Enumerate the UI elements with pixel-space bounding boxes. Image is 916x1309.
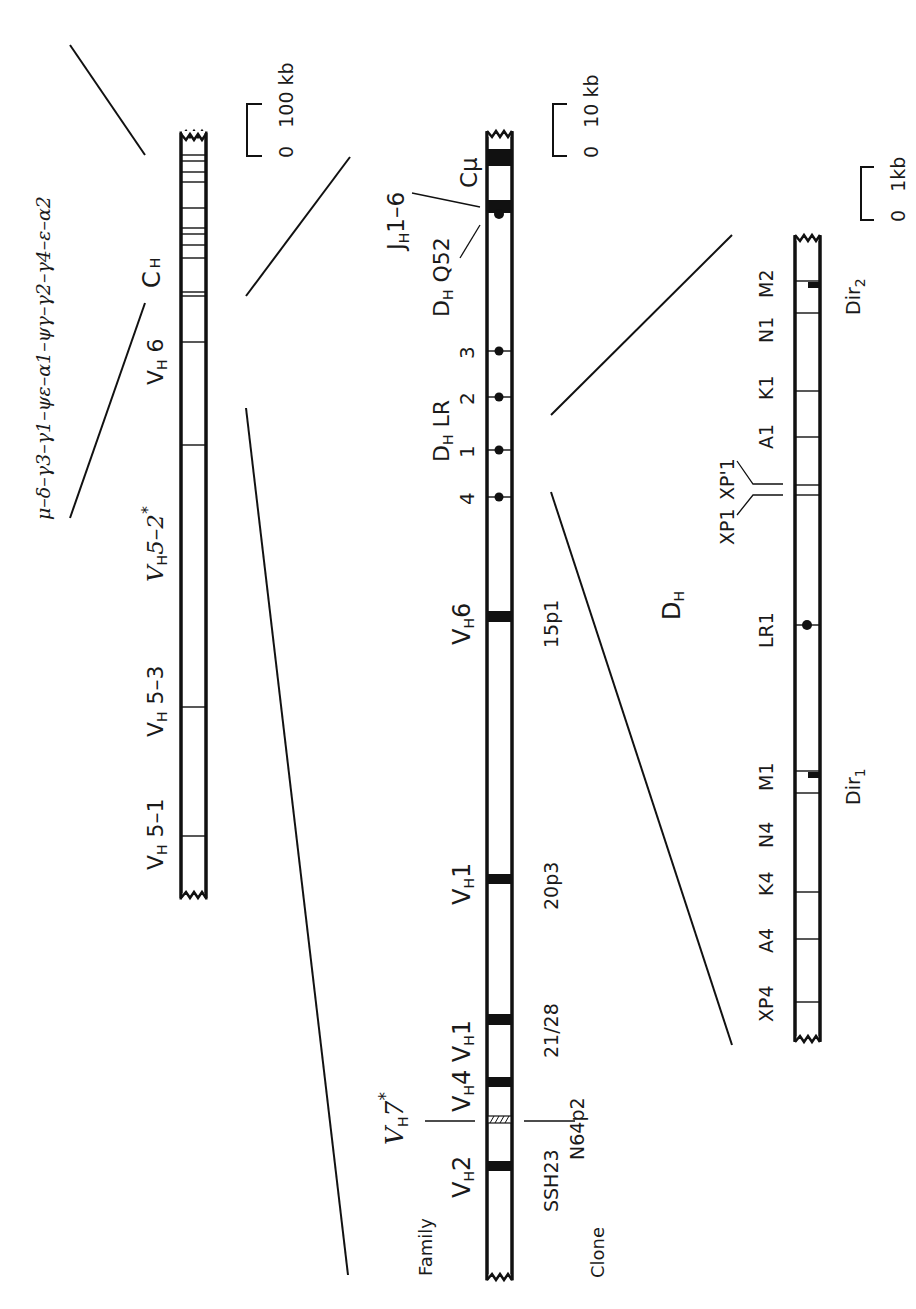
segment-label: XP'1	[716, 458, 738, 500]
dh-bar	[795, 233, 820, 1044]
svg-text:VH 6: VH 6	[143, 338, 170, 385]
segment-label: N4	[755, 822, 777, 848]
segment-label: XP4	[755, 985, 777, 1022]
family-vh2-label: VH2	[448, 1156, 477, 1198]
vh6-label: VH 6	[143, 338, 170, 385]
svg-text:VH6: VH6	[448, 603, 477, 645]
constant-region-label: CH	[138, 258, 166, 288]
svg-text:VH 5–3: VH 5–3	[143, 665, 170, 737]
segment-label: K4	[755, 871, 777, 896]
vh7-hatched-block	[488, 1116, 511, 1123]
clone-15p1: 15p1	[540, 600, 562, 648]
c-mu-label: Cμ	[456, 157, 482, 188]
dq52-pointer	[460, 225, 480, 258]
clone-21-28: 21/28	[540, 1003, 562, 1058]
segment-label: XP1	[716, 508, 738, 545]
dlr-number: 3	[455, 346, 479, 359]
dh-segment-labels: M2 N1 K1 A1 XP'1 XP1 LR1 M1 N4 K4 A4 XP4	[716, 270, 777, 1022]
locus-bar-body	[181, 133, 206, 898]
family-vh6-label: VH6	[448, 603, 477, 645]
clone-ssh23: SSH23	[540, 1149, 562, 1212]
vh4-block	[487, 1077, 512, 1087]
dlr-number: 1	[455, 445, 479, 458]
expanded-bar	[487, 129, 512, 1282]
xp1-pointer	[737, 495, 783, 515]
svg-text:0 100 kb: 0 100 kb	[275, 62, 297, 158]
dlr-number: 2	[455, 392, 479, 405]
locus-diagram: μ–δ–γ3–γ1–ψε–α1–ψγ–γ2–γ4–ε–α2 CH VH5–2* …	[0, 0, 916, 1309]
vh6-block	[487, 611, 512, 622]
svg-text:VH7*: VH7*	[375, 1092, 411, 1145]
constant-upper-connector	[70, 45, 145, 155]
dir1-block	[808, 772, 819, 778]
segment-label: K1	[755, 375, 777, 400]
segment-label: M1	[755, 763, 777, 791]
vh5-3-label: VH 5–3	[143, 665, 170, 737]
svg-text:DH LR: DH LR	[429, 400, 456, 462]
family-vh7-label: VH7*	[375, 1092, 411, 1145]
zoom-connector-lower-2	[551, 492, 732, 1045]
dq52-label: DH Q52	[429, 237, 456, 317]
dq52-dot	[494, 209, 504, 219]
vh5-1-label: VH 5–1	[143, 798, 170, 870]
vh2-block	[487, 1161, 512, 1171]
clone-header: Clone	[587, 1227, 608, 1278]
locus-bar	[181, 131, 206, 900]
segment-label: M2	[755, 270, 777, 298]
scale-bar-1kb: 0 1kb	[861, 157, 909, 222]
zoom-connector-upper-2	[551, 235, 732, 415]
svg-text:Dir1: Dir1	[842, 768, 868, 805]
dlr-label: DH LR	[429, 400, 456, 462]
dir1-label: Dir1	[842, 768, 868, 805]
xp-prime1-pointer	[737, 461, 783, 484]
family-vh1-label: VH1	[448, 863, 477, 905]
dh-bar-body	[795, 237, 820, 1040]
svg-text:JH1–6: JH1–6	[383, 192, 412, 252]
scale-bar-10kb: 0 10 kb	[553, 75, 602, 159]
clone-n64p2: N64p2	[566, 1097, 588, 1160]
segment-label: A4	[755, 928, 777, 953]
svg-text:VH 5–1: VH 5–1	[143, 798, 170, 870]
lr1-dot	[802, 620, 812, 630]
dlr-numbers: 3 2 1 4	[455, 346, 479, 505]
c-mu-block	[487, 149, 512, 166]
segment-label: N1	[755, 317, 777, 343]
clone-20p3: 20p3	[540, 862, 562, 910]
dir2-block	[808, 282, 819, 288]
segment-label: A1	[755, 424, 777, 449]
dh-region-label: DH	[658, 591, 687, 620]
scale-bar-100kb: 0 100 kb	[247, 62, 297, 158]
jh-label: JH1–6	[383, 192, 412, 252]
svg-text:VH1: VH1	[448, 863, 477, 905]
dir2-label: Dir2	[842, 278, 868, 315]
constant-lower-connector	[70, 303, 145, 518]
dlr-number: 4	[455, 492, 479, 505]
svg-text:DH Q52: DH Q52	[429, 237, 456, 317]
family-vh4-vh1-label: VH4 VH1	[448, 1020, 477, 1112]
zoom-connector-lower-1	[246, 408, 348, 1275]
expanded-bar-body	[487, 133, 512, 1279]
svg-text:0 1kb: 0 1kb	[887, 157, 909, 222]
svg-text:DH: DH	[658, 591, 687, 620]
vh5-2-label: VH5–2*	[138, 506, 170, 582]
jh-pointer	[412, 193, 480, 207]
svg-text:VH5–2*: VH5–2*	[138, 506, 170, 582]
segment-label: LR1	[755, 612, 777, 648]
svg-text:VH2: VH2	[448, 1156, 477, 1198]
svg-text:Dir2: Dir2	[842, 278, 868, 315]
svg-text:CH: CH	[138, 258, 166, 288]
vh1-21-28-block	[487, 1014, 512, 1025]
zoom-connector-upper-1	[246, 157, 350, 296]
svg-text:0 10 kb: 0 10 kb	[580, 75, 602, 159]
svg-text:VH4 VH1: VH4 VH1	[448, 1020, 477, 1112]
constant-genes-list: μ–δ–γ3–γ1–ψε–α1–ψγ–γ2–γ4–ε–α2	[32, 196, 54, 520]
vh1-block	[487, 874, 512, 884]
family-header: Family	[415, 1218, 436, 1276]
